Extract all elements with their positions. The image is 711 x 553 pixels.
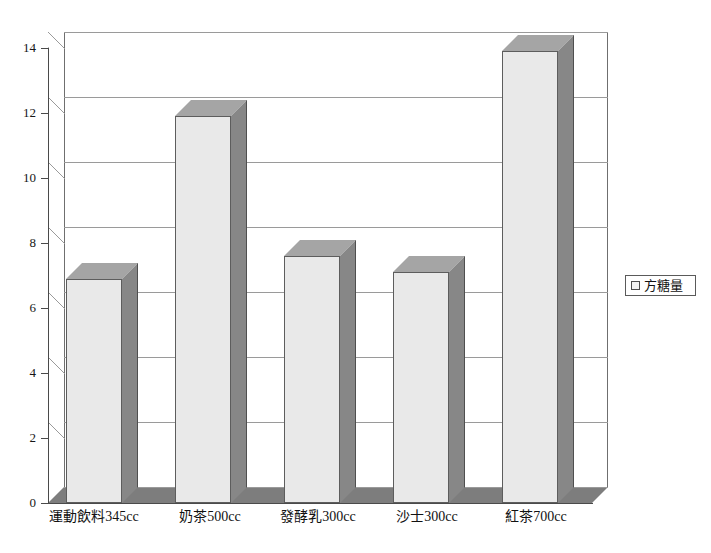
y-tick-label-8: 8 xyxy=(6,236,36,249)
bar-chart: 14 12 10 8 6 4 2 0 運動飲料345cc 奶茶500cc 發酵乳 xyxy=(0,0,711,553)
bar-front-2 xyxy=(175,116,231,503)
depth-connector-2 xyxy=(48,422,65,439)
x-axis-line xyxy=(48,503,593,504)
depth-connector-8 xyxy=(48,227,65,244)
bar-side-3 xyxy=(340,240,356,503)
gridline-14 xyxy=(64,32,608,33)
bar-front-5 xyxy=(502,51,558,503)
legend[interactable]: 方糖量 xyxy=(625,275,696,296)
bar-side-1 xyxy=(122,263,138,503)
y-tick-8 xyxy=(41,243,48,244)
depth-connector-6 xyxy=(48,292,65,309)
bar-side-4 xyxy=(449,256,465,503)
y-tick-10 xyxy=(41,178,48,179)
bar-front-4 xyxy=(393,272,449,503)
depth-connector-14 xyxy=(48,32,65,49)
y-tick-label-4: 4 xyxy=(6,366,36,379)
y-axis-line xyxy=(48,48,49,504)
y-tick-label-2: 2 xyxy=(6,431,36,444)
bar-side-2 xyxy=(231,100,247,503)
depth-connector-10 xyxy=(48,162,65,179)
bar-side-5 xyxy=(558,35,574,503)
y-tick-4 xyxy=(41,373,48,374)
y-tick-label-10: 10 xyxy=(6,171,36,184)
y-tick-label-0: 0 xyxy=(6,496,36,509)
y-tick-0 xyxy=(41,503,48,504)
y-tick-12 xyxy=(41,113,48,114)
y-tick-14 xyxy=(41,48,48,49)
y-tick-label-12: 12 xyxy=(6,106,36,119)
legend-label: 方糖量 xyxy=(644,279,683,293)
y-tick-6 xyxy=(41,308,48,309)
y-tick-label-6: 6 xyxy=(6,301,36,314)
bar-front-3 xyxy=(284,256,340,503)
x-tick-label-5: 紅茶700cc xyxy=(456,509,616,525)
legend-swatch-icon xyxy=(631,281,640,290)
bar-front-1 xyxy=(66,279,122,503)
depth-connector-4 xyxy=(48,357,65,374)
depth-connector-12 xyxy=(48,97,65,114)
y-tick-2 xyxy=(41,438,48,439)
y-tick-label-14: 14 xyxy=(6,41,36,54)
